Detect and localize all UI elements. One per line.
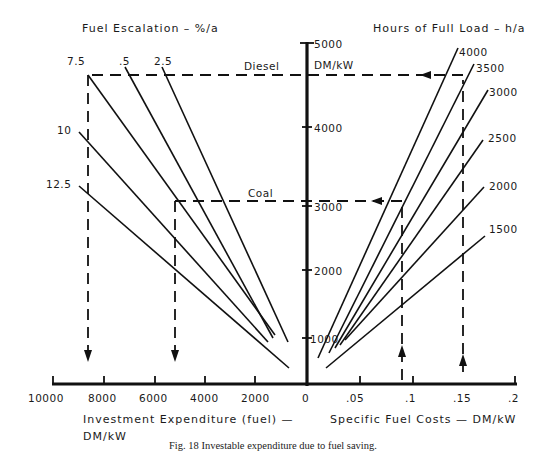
escalation-label-12.5: 12.5	[46, 178, 71, 190]
arrow-down-icon	[84, 350, 92, 362]
x-tick-2000: 2000	[241, 392, 270, 404]
hours-label-1500: 1500	[489, 223, 518, 235]
hours-full-load-title: Hours of Full Load – h/a	[373, 22, 525, 35]
y-axis: 5000 DM/kW 4000 3000 2000 1000	[300, 38, 354, 386]
x-tick-0.15: .15	[453, 392, 471, 404]
y-tick-4000: 4000	[314, 122, 343, 134]
arrow-up-icon	[398, 345, 406, 357]
x-tick-4000: 4000	[190, 392, 219, 404]
y-tick-2000: 2000	[314, 265, 343, 277]
hours-label-2000: 2000	[489, 180, 518, 192]
arrow-down-icon	[171, 350, 179, 362]
arrow-left-icon	[371, 197, 382, 205]
diesel-label: Diesel	[244, 60, 279, 72]
investment-axis-label: Investment Expenditure (fuel) —	[83, 413, 294, 426]
full-load-hours-lines: 4000 3500 3000 2500 2000 1500	[318, 46, 518, 368]
y-tick-3000: 3000	[314, 201, 343, 213]
nomogram-figure: Fuel Escalation – %/a Hours of Full Load…	[0, 0, 558, 464]
investment-axis-unit: DM/kW	[83, 430, 127, 443]
arrow-up-icon	[459, 354, 467, 366]
hours-label-2500: 2500	[488, 132, 517, 144]
x-tick-8000: 8000	[88, 392, 117, 404]
hours-label-3000: 3000	[489, 86, 518, 98]
diesel-example-path: Diesel	[84, 60, 467, 372]
x-tick-0.2: .2	[508, 392, 519, 404]
coal-label: Coal	[248, 187, 273, 199]
escalation-label-2.5: 2.5	[154, 55, 172, 67]
arrow-left-icon	[420, 71, 431, 79]
hours-label-4000: 4000	[459, 46, 488, 58]
escalation-label-10: 10	[57, 124, 71, 136]
escalation-lines: 7.5 .5 2.5 10 12.5	[46, 55, 289, 368]
x-tick-10000: 10000	[28, 392, 64, 404]
specific-fuel-cost-axis-label: Specific Fuel Costs — DM/kW	[330, 413, 516, 426]
y-tick-5000: 5000	[314, 38, 343, 50]
fuel-escalation-title: Fuel Escalation – %/a	[82, 22, 219, 35]
x-tick-6000: 6000	[139, 392, 168, 404]
y-axis-unit: DM/kW	[314, 59, 354, 71]
figure-caption: Fig. 18 Investable expenditure due to fu…	[169, 440, 377, 451]
x-tick-0: 0	[302, 392, 309, 404]
x-axis: 10000 8000 6000 4000 2000 0 .05 .1 .15 .…	[28, 376, 519, 404]
escalation-label-7.5: 7.5	[67, 55, 85, 67]
x-tick-0.1: .1	[405, 392, 416, 404]
x-tick-0.05: .05	[346, 392, 364, 404]
hours-label-3500: 3500	[476, 62, 505, 74]
escalation-label-5: .5	[119, 55, 130, 67]
